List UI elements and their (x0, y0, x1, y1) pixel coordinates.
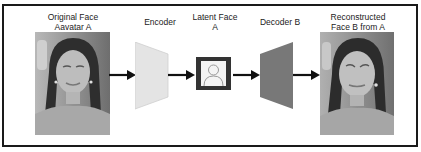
arrow-decoder-to-reconstructed (293, 69, 321, 81)
original-face-label: Original Face Aavatar A (30, 12, 116, 32)
reconstructed-face-label-line1: Reconstructed (318, 12, 398, 22)
arrow-encoder-to-latent (168, 69, 196, 81)
original-face-photo (35, 32, 110, 135)
latent-face-label-line2: A (185, 22, 245, 32)
reconstructed-face-label-line2: Face B from A (318, 22, 398, 32)
original-face-label-line2: Aavatar A (30, 22, 116, 32)
latent-face-label-line1: Latent Face (185, 12, 245, 22)
encoder-label: Encoder (130, 17, 190, 27)
arrow-original-to-encoder (109, 69, 137, 81)
reconstructed-face-label: Reconstructed Face B from A (318, 12, 398, 32)
latent-face-label: Latent Face A (185, 12, 245, 32)
reconstructed-face-photo (320, 32, 394, 135)
person-icon (201, 61, 226, 86)
decoder-label: Decoder B (250, 17, 310, 27)
encoder-label-text: Encoder (130, 17, 190, 27)
decoder-block (260, 42, 294, 110)
original-face-label-line1: Original Face (30, 12, 116, 22)
encoder-block (135, 42, 169, 110)
latent-face-box (196, 57, 231, 90)
decoder-label-text: Decoder B (250, 17, 310, 27)
arrow-latent-to-decoder (233, 69, 261, 81)
